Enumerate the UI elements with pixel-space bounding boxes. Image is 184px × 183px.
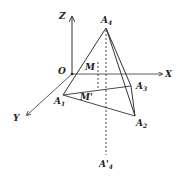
label-y: Y: [13, 113, 21, 123]
label-z: Z: [58, 11, 66, 21]
label-a2: A2: [135, 118, 147, 129]
label-a3: A3: [135, 81, 147, 92]
edge-a4-a2: [106, 28, 135, 116]
edge-a1-a3: [63, 86, 131, 95]
label-a4: A4: [100, 15, 112, 26]
edge-a4-a3: [106, 28, 131, 86]
label-a1: A1: [53, 96, 65, 107]
label-origin: O: [58, 66, 66, 76]
label-m-prime: M': [79, 92, 93, 102]
label-a4-prime: A'4: [98, 159, 113, 170]
edge-a1-a2: [63, 95, 135, 116]
tetrahedron-diagram: Z X Y O A4 A1 A3 A2 M M' A'4: [0, 0, 184, 183]
label-x: X: [164, 69, 173, 79]
label-m: M: [84, 62, 96, 72]
origin-point: [71, 73, 74, 76]
diagram-svg: Z X Y O A4 A1 A3 A2 M M' A'4: [0, 0, 184, 183]
